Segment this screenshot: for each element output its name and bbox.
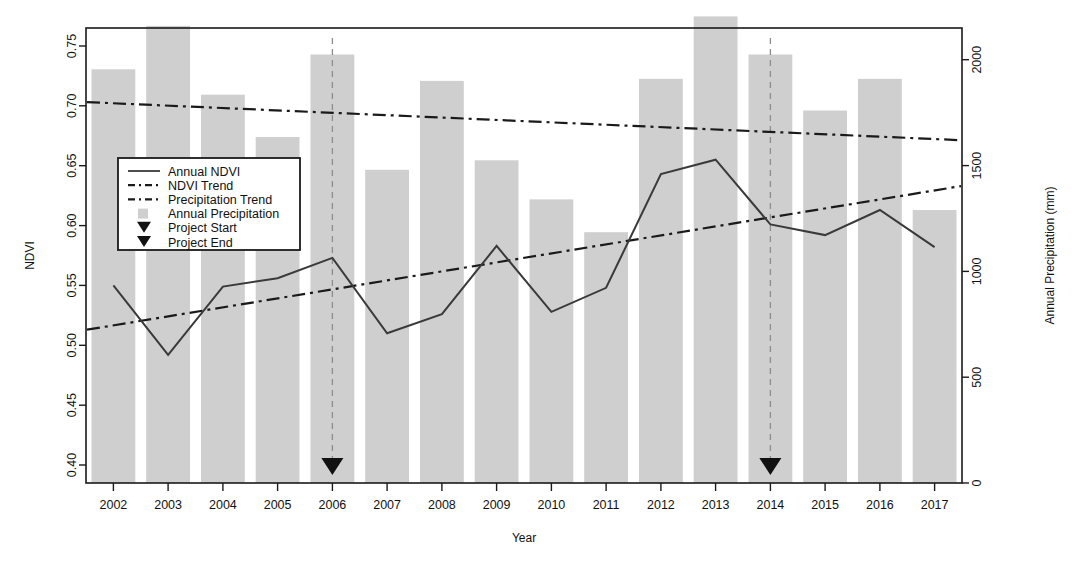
xtick-label-2012: 2012 [647,498,675,512]
xtick-label-2017: 2017 [921,498,949,512]
xtick-label-2009: 2009 [483,498,511,512]
xtick-label-2002: 2002 [99,498,127,512]
ytick-label-left-0.55: 0.55 [65,273,79,297]
bar-2002 [92,69,136,483]
bar-2013 [694,16,738,483]
ndvi-precipitation-chart: 0.400.450.500.550.600.650.700.7505001000… [0,0,1084,573]
y-axis-label-left: NDVI [23,241,37,270]
xtick-label-2014: 2014 [756,498,784,512]
ytick-label-left-0.75: 0.75 [65,34,79,58]
ytick-label-right-1500: 1500 [970,152,984,180]
y-axis-label-right: Annual Precipitation (mm) [1043,186,1057,324]
bar-2003 [146,26,190,483]
ytick-label-left-0.70: 0.70 [65,94,79,118]
legend-label-5: Project End [168,236,233,250]
ytick-label-left-0.65: 0.65 [65,153,79,177]
bar-2007 [365,170,409,483]
legend-label-0: Annual NDVI [168,165,240,179]
xtick-label-2005: 2005 [264,498,292,512]
bar-2017 [913,210,957,483]
xtick-label-2006: 2006 [318,498,346,512]
ytick-label-right-2000: 2000 [970,46,984,74]
xtick-label-2016: 2016 [866,498,894,512]
x-axis-label: Year [512,531,536,545]
bar-2012 [639,79,683,483]
bar-2015 [803,111,847,484]
legend-glyph-square-icon [138,209,148,219]
bar-2016 [858,79,902,483]
legend-label-3: Annual Precipitation [168,207,279,221]
y-axis-left: 0.400.450.500.550.600.650.700.75 [65,34,86,477]
ytick-label-right-0: 0 [970,479,984,486]
ytick-label-left-0.40: 0.40 [65,453,79,477]
xtick-label-2007: 2007 [373,498,401,512]
ytick-label-left-0.45: 0.45 [65,393,79,417]
bar-2004 [201,95,245,483]
ytick-label-right-500: 500 [970,367,984,388]
bar-2011 [584,232,628,483]
bar-2010 [530,199,574,483]
xtick-label-2010: 2010 [537,498,565,512]
y-axis-right: 0500100015002000 [962,46,984,487]
x-axis: 2002200320042005200620072008200920102011… [99,483,948,512]
xtick-label-2015: 2015 [811,498,839,512]
legend-label-4: Project Start [168,221,237,235]
xtick-label-2013: 2013 [702,498,730,512]
ytick-label-right-1000: 1000 [970,257,984,285]
bar-2008 [420,81,464,483]
xtick-label-2003: 2003 [154,498,182,512]
xtick-label-2004: 2004 [209,498,237,512]
bar-2009 [475,160,519,483]
ytick-label-left-0.60: 0.60 [65,213,79,237]
legend-label-1: NDVI Trend [168,179,233,193]
ytick-label-left-0.50: 0.50 [65,333,79,357]
xtick-label-2008: 2008 [428,498,456,512]
legend: Annual NDVINDVI TrendPrecipitation Trend… [118,158,300,250]
xtick-label-2011: 2011 [593,498,620,512]
chart-figure: 0.400.450.500.550.600.650.700.7505001000… [0,0,1084,573]
legend-label-2: Precipitation Trend [168,193,272,207]
